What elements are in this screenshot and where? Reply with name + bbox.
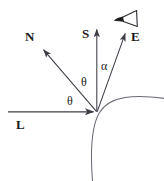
label-light-vector: L (16, 118, 25, 131)
label-theta-upper: θ (81, 76, 87, 88)
label-theta-lower: θ (67, 95, 73, 107)
reflection-geometry-figure: N S E L θ θ α (0, 0, 164, 181)
label-eye-vector: E (131, 30, 140, 43)
eye-icon (115, 11, 138, 27)
label-alpha: α (101, 60, 107, 72)
label-s-vector: S (82, 27, 89, 40)
surface-arc (91, 96, 164, 181)
label-normal-n: N (25, 30, 34, 43)
